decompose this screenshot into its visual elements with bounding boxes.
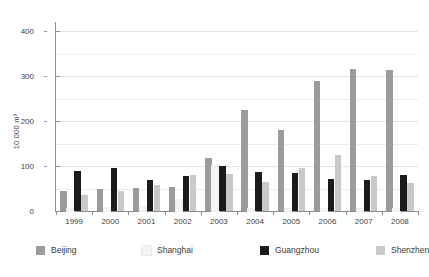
- bar: [183, 176, 189, 211]
- bar: [190, 175, 196, 211]
- x-axis-tick-mark: [237, 211, 238, 215]
- y-axis-tick-mark: [56, 76, 60, 77]
- legend-item[interactable]: Beijing: [36, 245, 77, 255]
- bar: [169, 187, 175, 211]
- y-axis-tick-dash: [44, 121, 47, 122]
- y-axis-tick-dash: [44, 31, 47, 32]
- bar: [278, 130, 284, 211]
- bar: [321, 209, 327, 211]
- bar: [292, 173, 298, 211]
- y-axis-tick-mark: [56, 166, 60, 167]
- bar-group: [350, 22, 377, 211]
- bar: [241, 110, 247, 211]
- y-axis-line: [55, 22, 56, 212]
- x-axis-tick-label: 2000: [101, 217, 119, 226]
- legend-label: Guangzhou: [275, 245, 319, 255]
- bar-group: [278, 22, 305, 211]
- bar: [262, 182, 268, 211]
- y-axis-tick-labels: 0100200300400: [0, 0, 50, 212]
- x-axis-tick-label: 2001: [138, 217, 156, 226]
- bar: [357, 209, 363, 211]
- bar-group: [241, 22, 268, 211]
- bar: [350, 69, 356, 211]
- x-axis-tick-mark: [273, 211, 274, 215]
- x-axis-tick-label: 2003: [210, 217, 228, 226]
- legend-swatch: [260, 246, 269, 255]
- bar: [364, 180, 370, 212]
- bar-group: [386, 22, 413, 211]
- bar: [205, 158, 211, 211]
- bar: [118, 191, 124, 211]
- x-axis-tick-label: 2002: [174, 217, 192, 226]
- bar: [285, 209, 291, 211]
- y-axis-tick-label: 200: [21, 117, 34, 126]
- legend-swatch: [376, 246, 385, 255]
- bar: [212, 166, 218, 211]
- x-axis-tick-label: 2008: [391, 217, 409, 226]
- legend-swatch: [36, 246, 45, 255]
- legend-label: Beijing: [51, 245, 77, 255]
- y-axis-tick-dash: [44, 76, 47, 77]
- bar: [60, 191, 66, 211]
- bar: [104, 208, 110, 211]
- x-axis-tick-mark: [201, 211, 202, 215]
- x-axis-tick-label: 2007: [355, 217, 373, 226]
- y-axis-tick-mark: [56, 31, 60, 32]
- x-axis-tick-label: 1999: [65, 217, 83, 226]
- legend-swatch: [142, 246, 151, 255]
- bar: [400, 175, 406, 211]
- legend-label: Shanghai: [157, 245, 193, 255]
- bar: [176, 200, 182, 211]
- y-axis-tick-label: 300: [21, 72, 34, 81]
- x-axis-tick-label: 2006: [319, 217, 337, 226]
- x-axis-tick-mark: [418, 211, 419, 215]
- y-axis-tick-label: 400: [21, 27, 34, 36]
- bar: [67, 209, 73, 211]
- x-axis-tick-label: 2004: [246, 217, 264, 226]
- y-axis-tick-dash: [44, 166, 47, 167]
- chart-legend: BeijingShanghaiGuangzhouShenzhen: [36, 245, 416, 263]
- bar: [314, 81, 320, 212]
- y-axis-tick-label: 100: [21, 162, 34, 171]
- bar-group: [60, 22, 87, 211]
- bar: [335, 155, 341, 211]
- bar: [393, 209, 399, 211]
- bar: [248, 209, 254, 211]
- bar: [299, 168, 305, 211]
- bar: [328, 179, 334, 211]
- bar: [219, 166, 225, 211]
- bar-group: [97, 22, 124, 211]
- bar: [386, 70, 392, 211]
- x-axis-tick-mark: [309, 211, 310, 215]
- x-axis-tick-mark: [382, 211, 383, 215]
- bar: [226, 174, 232, 211]
- x-axis-tick-mark: [165, 211, 166, 215]
- x-axis-tick-mark: [346, 211, 347, 215]
- bar: [74, 171, 80, 212]
- y-axis-tick-mark: [56, 121, 60, 122]
- bar: [147, 180, 153, 211]
- bar: [97, 189, 103, 211]
- x-axis-tick-mark: [56, 211, 57, 215]
- bar: [140, 207, 146, 211]
- bar: [371, 176, 377, 211]
- x-axis-tick-mark: [128, 211, 129, 215]
- bar: [111, 168, 117, 211]
- legend-item[interactable]: Shenzhen: [376, 245, 429, 255]
- legend-item[interactable]: Guangzhou: [260, 245, 319, 255]
- bar: [133, 188, 139, 211]
- bar-group: [169, 22, 196, 211]
- bar-group: [314, 22, 341, 211]
- bar: [255, 172, 261, 211]
- bar-group: [205, 22, 232, 211]
- legend-label: Shenzhen: [391, 245, 429, 255]
- x-axis-tick-mark: [92, 211, 93, 215]
- legend-item[interactable]: Shanghai: [142, 245, 193, 255]
- x-axis-tick-label: 2005: [282, 217, 300, 226]
- bar: [154, 185, 160, 211]
- bar: [81, 195, 87, 211]
- bar: [407, 183, 413, 211]
- y-axis-tick-label: 0: [30, 207, 34, 216]
- bar-group: [133, 22, 160, 211]
